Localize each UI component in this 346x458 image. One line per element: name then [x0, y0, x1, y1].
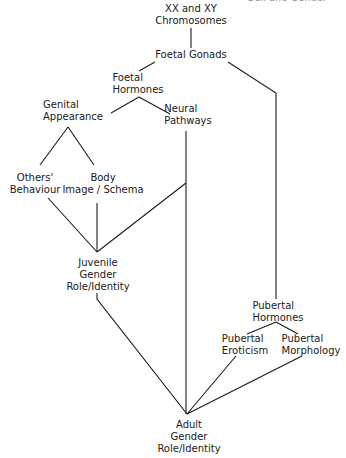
node-label: Pubertal — [252, 300, 303, 312]
node-adult-gender: Adult Gender Role/Identity — [157, 419, 220, 455]
node-label: Body — [62, 172, 143, 184]
node-label: Role/Identity — [66, 281, 129, 293]
node-label: Pubertal — [282, 333, 341, 345]
node-label: Pubertal — [222, 333, 268, 345]
node-label: Hormones — [252, 312, 303, 324]
node-label: Image / Schema — [62, 184, 143, 196]
edge-morphology-adult — [187, 356, 302, 414]
node-label: Behaviour — [10, 184, 61, 196]
node-label: Appearance — [43, 111, 103, 123]
node-genital-appearance: Genital Appearance — [43, 99, 103, 123]
node-label: Morphology — [282, 345, 341, 357]
diagram-edges — [0, 0, 346, 458]
node-others-behaviour: Others' Behaviour — [10, 172, 61, 196]
node-label: Neural — [164, 103, 211, 115]
node-foetal-hormones: Foetal Hormones — [112, 72, 163, 96]
node-label: Foetal — [112, 72, 163, 84]
node-label: Pathways — [164, 115, 211, 127]
node-pubertal-morphology: Pubertal Morphology — [282, 333, 341, 357]
edge-juvenile-adult — [97, 293, 187, 414]
edge-others-juvenile — [48, 198, 97, 252]
node-label: Foetal Gonads — [155, 49, 227, 61]
node-body-image: Body Image / Schema — [62, 172, 143, 196]
node-label: Others' — [10, 172, 61, 184]
edge-eroticism-adult — [187, 356, 236, 414]
node-foetal-gonads: Foetal Gonads — [155, 49, 227, 61]
node-label: XX and XY — [155, 3, 227, 15]
node-label: Juvenile — [66, 257, 129, 269]
node-label: Gender — [157, 431, 220, 443]
edge-gonads-pubertal-hormones — [228, 62, 276, 299]
node-label: Gender — [66, 269, 129, 281]
node-label: Chromosomes — [155, 15, 227, 27]
node-label: Adult — [157, 419, 220, 431]
node-pubertal-hormones: Pubertal Hormones — [252, 300, 303, 324]
node-juvenile-gender: Juvenile Gender Role/Identity — [66, 257, 129, 293]
edge-foetal-hormones-genital — [111, 97, 139, 113]
edge-genital-others — [40, 127, 68, 165]
node-pubertal-eroticism: Pubertal Eroticism — [222, 333, 268, 357]
node-neural-pathways: Neural Pathways — [164, 103, 211, 127]
node-label: Genital — [43, 99, 103, 111]
edge-gonads-foetal-hormones — [139, 62, 155, 71]
node-chromosomes: XX and XY Chromosomes — [155, 3, 227, 27]
node-label: Hormones — [112, 84, 163, 96]
edge-genital-body — [68, 127, 94, 165]
node-label: Role/Identity — [157, 443, 220, 455]
node-label: Eroticism — [222, 345, 268, 357]
